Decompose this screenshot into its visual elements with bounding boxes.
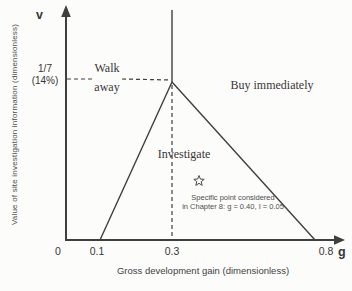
- walk-away-line1: Walk: [84, 59, 130, 78]
- x-tick-0.3: 0.3: [157, 245, 187, 257]
- y-axis-symbol: v: [36, 8, 43, 22]
- star-icon: [194, 176, 204, 186]
- decision-region-figure: v g 1/7 (14%) Value of site investigatio…: [0, 0, 352, 291]
- x-axis-arrowhead-icon: [334, 235, 345, 244]
- x-tick-0.1: 0.1: [82, 245, 112, 257]
- x-tick-0: 0: [48, 245, 68, 257]
- x-axis-title: Gross development gain (dimensionless): [88, 265, 318, 276]
- y-tick-label: 1/7 (14%): [24, 63, 66, 86]
- region-label-buy-immediately: Buy immediately: [222, 78, 322, 93]
- y-tick-fraction: 1/7: [24, 63, 66, 75]
- walk-away-line2: away: [84, 78, 130, 97]
- y-axis-title: Value of site investigation information …: [10, 10, 19, 240]
- region-label-walk-away: Walk away: [84, 59, 130, 96]
- y-axis-arrowhead-icon: [61, 5, 71, 17]
- region-label-investigate: Investigate: [144, 147, 224, 162]
- annotation-line2: in Chapter 8: g = 0.40, I = 0.05: [162, 202, 304, 211]
- annotation-line1: Specific point considered: [162, 193, 304, 202]
- x-tick-0.8: 0.8: [311, 245, 341, 257]
- star-annotation: Specific point considered in Chapter 8: …: [162, 193, 304, 211]
- y-tick-percent: (14%): [24, 75, 66, 87]
